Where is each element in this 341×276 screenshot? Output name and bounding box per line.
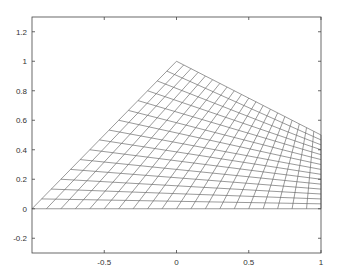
mesh-line: [249, 117, 285, 209]
y-tick-label: 1: [23, 57, 28, 66]
mesh-line: [32, 61, 177, 209]
mesh-line: [61, 69, 191, 209]
x-tick-label: -0.5: [97, 258, 111, 267]
y-tick-label: -0.2: [13, 234, 27, 243]
mesh-plot: -0.500.51-0.200.20.40.60.811.2: [0, 0, 341, 276]
mesh-line: [71, 169, 321, 189]
mesh-line: [119, 83, 220, 208]
mesh-lines: [32, 61, 321, 209]
mesh-line: [80, 160, 321, 185]
y-tick-label: 0.4: [16, 146, 28, 155]
y-tick-label: 0: [23, 205, 28, 214]
y-tick-label: 0.8: [16, 87, 28, 96]
y-tick-label: 0.6: [16, 116, 28, 125]
mesh-line: [90, 76, 206, 209]
mesh-line: [148, 91, 235, 209]
mesh-line: [278, 124, 300, 209]
mesh-line: [263, 120, 292, 209]
x-tick-label: 0.5: [243, 258, 255, 267]
mesh-line: [128, 110, 321, 159]
mesh-line: [90, 150, 321, 180]
mesh-line: [307, 131, 314, 208]
mesh-line: [292, 128, 306, 209]
mesh-line: [61, 179, 321, 194]
x-tick-label: 1: [319, 258, 324, 267]
y-tick-label: 1.2: [16, 28, 28, 37]
mesh-line: [51, 189, 321, 199]
mesh-line: [42, 199, 321, 204]
mesh-line: [177, 61, 322, 135]
mesh-line: [119, 120, 321, 164]
x-tick-label: 0: [174, 258, 179, 267]
y-tick-label: 0.2: [16, 175, 28, 184]
mesh-line: [167, 71, 321, 140]
mesh-line: [157, 81, 321, 145]
mesh-line: [75, 72, 198, 208]
